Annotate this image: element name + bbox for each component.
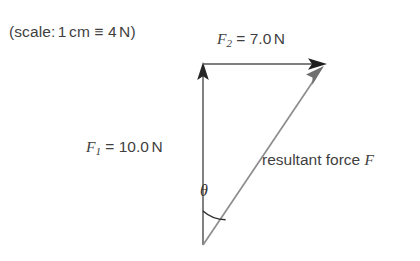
scale-note-prefix: (scale: bbox=[9, 23, 55, 40]
vector-f2-subscript: 2 bbox=[226, 37, 232, 49]
vector-f1-equals: = bbox=[105, 138, 114, 155]
scale-note-suffix: ) bbox=[130, 23, 135, 40]
vector-f2-equals: = bbox=[236, 30, 245, 47]
vector-f1-magnitude: 10.0 bbox=[119, 138, 149, 155]
vector-f2-label: F2 = 7.0N bbox=[217, 31, 285, 49]
vector-resultant-symbol: F bbox=[365, 151, 374, 168]
scale-note-equiv: ≡ bbox=[94, 23, 103, 40]
vector-resultant-label: resultant force F bbox=[262, 152, 374, 168]
force-vector-diagram: (scale:1cm ≡ 4N) F2 = 7.0N F1 = 10.0N re… bbox=[0, 0, 420, 261]
vector-f1-label: F1 = 10.0N bbox=[86, 139, 163, 157]
scale-note-length: 1 bbox=[58, 23, 67, 40]
vector-f1-unit: N bbox=[151, 138, 162, 155]
vector-f2-magnitude: 7.0 bbox=[250, 30, 272, 47]
vector-f2-unit: N bbox=[274, 30, 285, 47]
vector-f2 bbox=[203, 58, 327, 70]
scale-note-value: 4 bbox=[108, 23, 117, 40]
scale-note: (scale:1cm ≡ 4N) bbox=[9, 24, 136, 40]
vector-f1-subscript: 1 bbox=[95, 145, 101, 157]
scale-note-force-unit: N bbox=[119, 23, 130, 40]
vector-resultant-text: resultant force bbox=[262, 151, 360, 168]
angle-label-theta: θ bbox=[200, 183, 208, 199]
scale-note-unit: cm bbox=[69, 23, 90, 40]
vector-f1 bbox=[197, 62, 209, 245]
